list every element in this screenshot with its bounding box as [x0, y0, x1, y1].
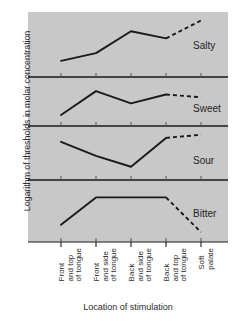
x-tick-label: Frontand topof tongue: [58, 248, 84, 281]
x-tick-label-line: of tongue: [180, 248, 189, 281]
panel-label-sweet: Sweet: [193, 103, 221, 114]
x-tick-label-line: of tongue: [145, 248, 154, 281]
panel-label-sour: Sour: [193, 155, 214, 166]
x-tick-label-line: palate: [207, 248, 216, 270]
panel-label-bitter: Bitter: [193, 208, 216, 219]
x-tick-label: Backand topof tongue: [163, 248, 189, 281]
taste-threshold-figure: Logarithm of thresholds in molar concent…: [0, 0, 243, 321]
x-tick-label-line: of tongue: [75, 248, 84, 281]
x-tick-label: Softpalate: [198, 248, 215, 270]
x-tick-label: Frontand sideof tongue: [93, 248, 119, 281]
y-axis-title: Logarithm of thresholds in molar concent…: [22, 16, 32, 226]
panel-label-salty: Salty: [193, 40, 215, 51]
x-axis-title: Location of stimulation: [28, 302, 228, 312]
x-tick-label-line: of tongue: [110, 248, 119, 281]
x-tick-label: Backand sideof tongue: [128, 248, 154, 281]
